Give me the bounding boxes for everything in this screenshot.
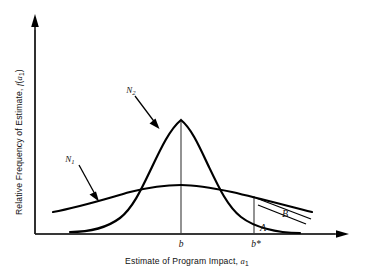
distribution-chart: Relative Frequency of Estimate, f(a1) Es… [0,0,366,275]
tick-label-b-star: b* [251,239,261,249]
y-axis-label: Relative Frequency of Estimate, f(a1) [14,69,25,215]
x-axis-label: Estimate of Program Impact, a1 [125,256,249,267]
y-axis-arrow-icon [31,14,39,27]
x-axis-arrow-icon [336,230,349,238]
curve-label-n1: N1 [64,154,74,165]
curve-label-n2: N2 [125,85,136,96]
n2-leader-line [135,96,156,124]
n1-leader-arrow-icon [90,192,100,202]
region-label-a: A [259,222,267,233]
curve-n2 [70,120,300,233]
tick-label-b: b [179,239,184,249]
figure-container: Relative Frequency of Estimate, f(a1) Es… [0,0,366,275]
n2-leader-arrow-icon [150,119,160,130]
n1-leader-line [79,165,96,196]
region-label-b: B [282,208,288,219]
